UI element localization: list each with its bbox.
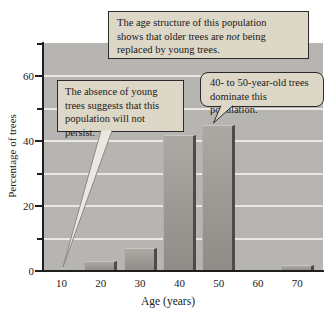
callout-absence-line1: The absence of young [65,86,157,97]
x-tick-label-50: 50 [207,277,231,289]
callout-age-structure-emphasis: not [226,31,239,42]
x-tick-label-30: 30 [128,277,152,289]
x-axis-line [42,270,324,272]
x-tick-label-70: 70 [285,277,309,289]
y-tick-label-0: 0 [12,265,34,277]
x-tick-label-40: 40 [167,277,191,289]
bar-age-50 [202,125,235,271]
callout-age-structure-line2a: shows that older trees are [117,31,226,42]
y-axis-line [42,42,44,272]
y-axis-title: Percentage of trees [6,81,18,231]
callout-dominant: 40- to 50-year-old trees dominate this p… [200,72,324,107]
x-tick-label-60: 60 [246,277,270,289]
bar-age-40 [163,135,196,271]
callout-absence-line2: trees suggests that this [65,100,159,111]
callout-dominant-line1: 40- to 50-year-old trees [210,77,309,88]
callout-age-structure-line3: replaced by young trees. [117,44,220,55]
x-axis-title: Age (years) [44,295,292,307]
tree-age-structure-figure: 020406010203040506070 Percentage of tree… [0,0,334,319]
x-tick-label-10: 10 [50,277,74,289]
callout-absence: The absence of young trees suggests that… [57,80,184,132]
callout-age-structure: The age structure of this population sho… [108,11,309,59]
callout-age-structure-line1: The age structure of this population [117,17,267,28]
bar-age-30 [124,248,157,271]
callout-age-structure-line2b: being [240,31,266,42]
x-tick-label-20: 20 [89,277,113,289]
